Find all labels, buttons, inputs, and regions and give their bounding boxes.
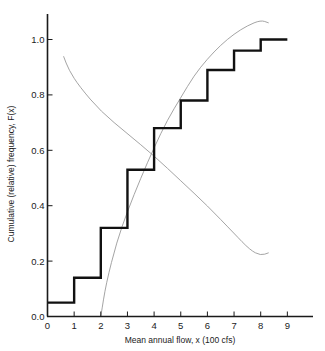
- x-tick-label: 1: [72, 320, 77, 331]
- x-tick-label: 5: [178, 320, 183, 331]
- y-tick-label: 0.8: [31, 89, 44, 100]
- y-tick-label: 0.4: [31, 200, 44, 211]
- x-ticks: 0123456789: [45, 312, 290, 331]
- x-tick-label: 2: [98, 320, 103, 331]
- x-tick-label: 8: [258, 320, 263, 331]
- cumulative-frequency-step: [48, 40, 288, 303]
- x-tick-label: 6: [205, 320, 210, 331]
- x-tick-label: 4: [151, 320, 156, 331]
- y-ticks: 0.00.20.40.60.81.0: [31, 34, 52, 322]
- plot-lines: [48, 21, 288, 316]
- y-tick-label: 0.2: [31, 256, 44, 267]
- x-tick-label: 3: [125, 320, 130, 331]
- increasing-curve: [101, 21, 269, 316]
- y-axis-title: Cumulative (relative) frequency, F(x): [6, 105, 16, 242]
- cdf-chart: 0123456789 0.00.20.40.60.81.0 Mean annua…: [0, 0, 325, 351]
- x-tick-label: 7: [231, 320, 236, 331]
- x-tick-label: 0: [45, 320, 50, 331]
- decreasing-curve: [63, 56, 268, 255]
- y-tick-label: 0.0: [31, 311, 44, 322]
- x-tick-label: 9: [285, 320, 290, 331]
- y-tick-label: 0.6: [31, 145, 44, 156]
- x-axis-title: Mean annual flow, x (100 cfs): [125, 335, 236, 345]
- y-tick-label: 1.0: [31, 34, 44, 45]
